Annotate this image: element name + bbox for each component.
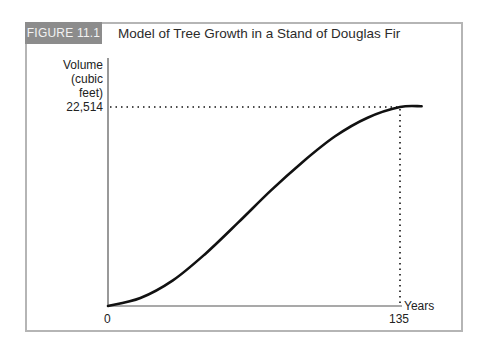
x-135-label: 135 [389, 312, 409, 326]
y-axis-label-line-2: (cubic [71, 72, 103, 86]
y-max-value-label: 22,514 [66, 100, 103, 114]
growth-curve [108, 106, 422, 306]
y-axis-label-line-1: Volume [63, 58, 103, 72]
x-origin-label: 0 [104, 312, 111, 326]
x-axis-label: Years [404, 299, 434, 313]
y-axis-label-line-3: feet) [79, 86, 103, 100]
